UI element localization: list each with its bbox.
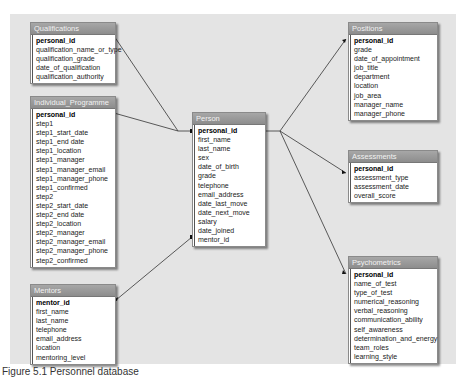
field: step2_end date bbox=[36, 210, 115, 219]
field: job_area bbox=[354, 91, 437, 100]
field: assessment_type bbox=[354, 173, 437, 182]
primary-key-field: personal_id bbox=[36, 36, 115, 45]
field: location bbox=[36, 343, 115, 352]
field: overall_score bbox=[354, 191, 437, 200]
field: email_address bbox=[36, 334, 115, 343]
field: step1_manager_phone bbox=[36, 174, 115, 183]
field: numerical_reasoning bbox=[354, 297, 437, 306]
primary-key-field: personal_id bbox=[198, 126, 265, 135]
field: step2_manager_phone bbox=[36, 246, 115, 255]
field: step2 bbox=[36, 192, 115, 201]
table-psychometrics[interactable]: Psychometrics personal_id name_of_test t… bbox=[348, 256, 438, 364]
field: date_of_birth bbox=[198, 162, 265, 171]
field: date_of_qualification bbox=[36, 63, 115, 72]
table-qualifications[interactable]: Qualifications personal_id qualification… bbox=[30, 22, 116, 84]
field: qualification_grade bbox=[36, 54, 115, 63]
field: location bbox=[354, 81, 437, 90]
field: assessment_date bbox=[354, 182, 437, 191]
field: job_title bbox=[354, 63, 437, 72]
field: grade bbox=[354, 45, 437, 54]
field: step2_manager bbox=[36, 228, 115, 237]
field: name_of_test bbox=[354, 279, 437, 288]
field: step2_start_date bbox=[36, 201, 115, 210]
primary-key-field: personal_id bbox=[354, 164, 437, 173]
field: qualification_authority bbox=[36, 72, 115, 81]
field: step1_manager_email bbox=[36, 165, 115, 174]
table-individual-programme[interactable]: Individual_Programme personal_id step1 s… bbox=[30, 96, 116, 268]
primary-key-field: personal_id bbox=[36, 110, 115, 119]
field: telephone bbox=[198, 181, 265, 190]
table-title: Individual_Programme bbox=[31, 97, 115, 109]
field: salary bbox=[198, 217, 265, 226]
primary-key-field: personal_id bbox=[354, 36, 437, 45]
field: verbal_reasoning bbox=[354, 306, 437, 315]
field: qualification_name_or_type bbox=[36, 45, 115, 54]
field: communication_ability bbox=[354, 315, 437, 324]
table-title: Qualifications bbox=[31, 23, 115, 35]
field: last_name bbox=[36, 316, 115, 325]
primary-key-field: personal_id bbox=[354, 270, 437, 279]
field: step2_location bbox=[36, 219, 115, 228]
table-title: Mentors bbox=[31, 285, 115, 297]
field: manager_phone bbox=[354, 109, 437, 118]
table-mentors[interactable]: Mentors mentor_id first_name last_name t… bbox=[30, 284, 116, 365]
field: last_name bbox=[198, 144, 265, 153]
field: mentor_id bbox=[198, 235, 265, 244]
primary-key-field: mentor_id bbox=[36, 298, 115, 307]
field: step1 bbox=[36, 119, 115, 128]
field: step2_confirmed bbox=[36, 256, 115, 265]
field: first_name bbox=[36, 307, 115, 316]
field: step1_manager bbox=[36, 155, 115, 164]
field: step1_end date bbox=[36, 137, 115, 146]
field: self_awareness bbox=[354, 325, 437, 334]
field: manager_name bbox=[354, 100, 437, 109]
table-title: Assessments bbox=[349, 151, 437, 163]
field: determination_and_energy bbox=[354, 334, 437, 343]
field: sex bbox=[198, 153, 265, 162]
field: mentoring_level bbox=[36, 353, 115, 362]
field: step2_manager_email bbox=[36, 237, 115, 246]
table-title: Person bbox=[193, 113, 265, 125]
field: learning_style bbox=[354, 352, 437, 361]
field: type_of_test bbox=[354, 288, 437, 297]
figure-caption: Figure 5.1 Personnel database bbox=[2, 366, 139, 377]
field: step1_location bbox=[36, 146, 115, 155]
field: department bbox=[354, 72, 437, 81]
field: date_last_move bbox=[198, 199, 265, 208]
field: grade bbox=[198, 171, 265, 180]
field: email_address bbox=[198, 190, 265, 199]
field: step1_confirmed bbox=[36, 183, 115, 192]
table-title: Positions bbox=[349, 23, 437, 35]
field: telephone bbox=[36, 325, 115, 334]
field: date_of_appointment bbox=[354, 54, 437, 63]
field: step1_start_date bbox=[36, 128, 115, 137]
table-title: Psychometrics bbox=[349, 257, 437, 269]
field: team_roles bbox=[354, 343, 437, 352]
field: date_joined bbox=[198, 226, 265, 235]
table-positions[interactable]: Positions personal_id grade date_of_appo… bbox=[348, 22, 438, 121]
table-assessments[interactable]: Assessments personal_id assessment_type … bbox=[348, 150, 438, 203]
field: date_next_move bbox=[198, 208, 265, 217]
table-person[interactable]: Person personal_id first_name last_name … bbox=[192, 112, 266, 247]
field: first_name bbox=[198, 135, 265, 144]
